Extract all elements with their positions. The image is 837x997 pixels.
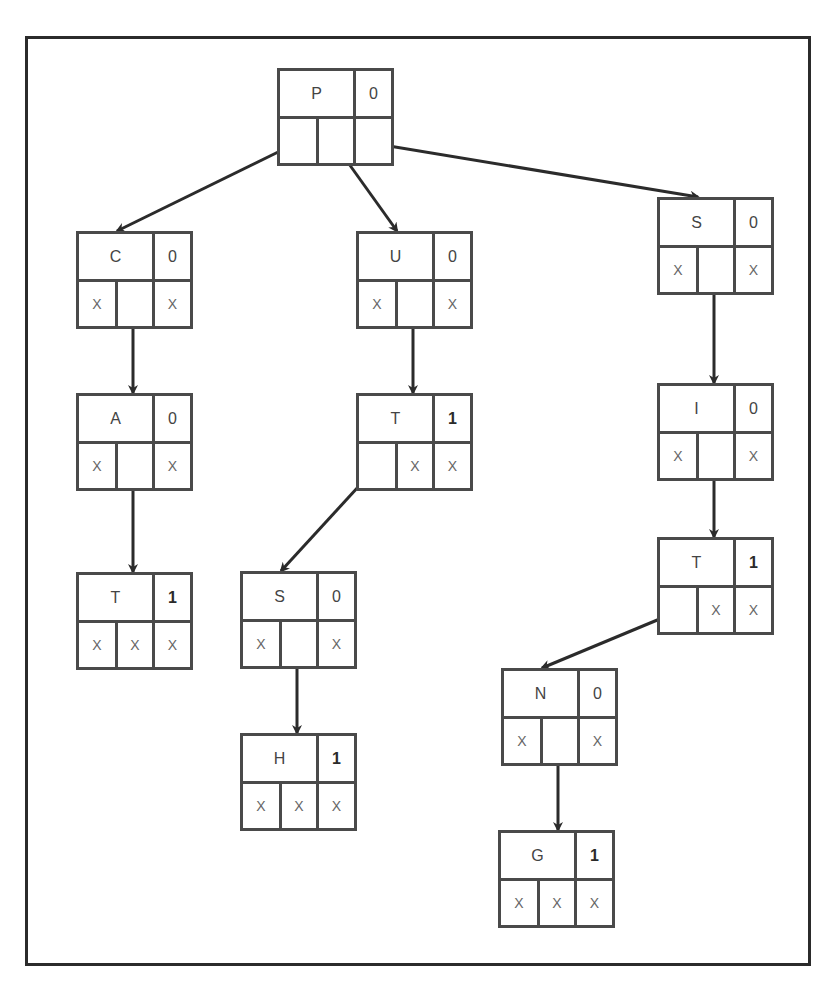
trie-node-G: G1XXX — [498, 830, 615, 928]
node-children: XX — [79, 282, 190, 326]
node-end-flag: 0 — [435, 234, 470, 279]
node-letter: S — [243, 574, 319, 619]
trie-node-U: U0XX — [356, 231, 473, 329]
node-header: A0 — [79, 396, 190, 444]
child-pointer-null: X — [118, 623, 155, 667]
node-letter: A — [79, 396, 155, 441]
child-pointer — [356, 119, 391, 163]
node-children: XX — [504, 719, 615, 763]
child-pointer-null: X — [699, 588, 736, 632]
child-pointer — [699, 434, 736, 478]
trie-node-H: H1XXX — [240, 733, 357, 831]
child-pointer — [660, 588, 699, 632]
node-children: XX — [359, 282, 470, 326]
node-header: S0 — [660, 200, 771, 248]
child-pointer-null: X — [540, 881, 577, 925]
node-header: N0 — [504, 671, 615, 719]
node-letter: T — [79, 575, 155, 620]
trie-diagram: P0 C0XX U0XX S0XX A0XX T1XX I0XX T1XXX S… — [0, 0, 837, 997]
node-end-flag: 0 — [155, 234, 190, 279]
trie-node-A: A0XX — [76, 393, 193, 491]
child-pointer — [280, 119, 319, 163]
node-end-flag: 0 — [736, 200, 771, 245]
trie-node-T2: T1XXX — [76, 572, 193, 670]
child-pointer-null: X — [501, 881, 540, 925]
node-letter: S — [660, 200, 736, 245]
trie-node-S2: S0XX — [240, 571, 357, 669]
child-pointer-null: X — [577, 881, 612, 925]
node-letter: T — [359, 396, 435, 441]
child-pointer — [543, 719, 580, 763]
node-children: XX — [660, 434, 771, 478]
child-pointer — [398, 282, 435, 326]
node-children: XX — [79, 444, 190, 488]
node-header: G1 — [501, 833, 612, 881]
node-letter: U — [359, 234, 435, 279]
trie-node-P: P0 — [277, 68, 394, 166]
node-letter: G — [501, 833, 577, 878]
child-pointer-null: X — [79, 623, 118, 667]
child-pointer-null: X — [736, 588, 771, 632]
node-children — [280, 119, 391, 163]
node-end-flag: 1 — [155, 575, 190, 620]
node-end-flag: 0 — [155, 396, 190, 441]
trie-node-T1: T1XX — [356, 393, 473, 491]
node-children: XXX — [79, 623, 190, 667]
node-header: T1 — [79, 575, 190, 623]
child-pointer-null: X — [243, 784, 282, 828]
node-letter: H — [243, 736, 319, 781]
node-end-flag: 0 — [736, 386, 771, 431]
child-pointer-null: X — [736, 434, 771, 478]
child-pointer — [319, 119, 356, 163]
node-end-flag: 1 — [319, 736, 354, 781]
child-pointer-null: X — [79, 282, 118, 326]
child-pointer — [699, 248, 736, 292]
child-pointer-null: X — [155, 282, 190, 326]
child-pointer-null: X — [319, 784, 354, 828]
child-pointer-null: X — [435, 444, 470, 488]
node-letter: I — [660, 386, 736, 431]
node-end-flag: 1 — [577, 833, 612, 878]
child-pointer-null: X — [359, 282, 398, 326]
trie-node-C: C0XX — [76, 231, 193, 329]
child-pointer-null: X — [155, 444, 190, 488]
node-end-flag: 1 — [736, 540, 771, 585]
node-children: XX — [359, 444, 470, 488]
node-header: I0 — [660, 386, 771, 434]
node-children: XX — [660, 588, 771, 632]
child-pointer — [359, 444, 398, 488]
node-children: XX — [660, 248, 771, 292]
node-letter: C — [79, 234, 155, 279]
child-pointer — [118, 282, 155, 326]
node-letter: T — [660, 540, 736, 585]
child-pointer-null: X — [504, 719, 543, 763]
node-header: T1 — [660, 540, 771, 588]
child-pointer-null: X — [435, 282, 470, 326]
node-children: XX — [243, 622, 354, 666]
node-end-flag: 1 — [435, 396, 470, 441]
child-pointer-null: X — [660, 434, 699, 478]
node-header: T1 — [359, 396, 470, 444]
child-pointer-null: X — [660, 248, 699, 292]
node-end-flag: 0 — [580, 671, 615, 716]
node-letter: N — [504, 671, 580, 716]
node-header: U0 — [359, 234, 470, 282]
node-header: H1 — [243, 736, 354, 784]
node-header: S0 — [243, 574, 354, 622]
node-end-flag: 0 — [319, 574, 354, 619]
child-pointer-null: X — [282, 784, 319, 828]
child-pointer-null: X — [319, 622, 354, 666]
trie-node-S1: S0XX — [657, 197, 774, 295]
node-header: C0 — [79, 234, 190, 282]
node-end-flag: 0 — [356, 71, 391, 116]
node-children: XXX — [501, 881, 612, 925]
child-pointer-null: X — [155, 623, 190, 667]
trie-node-I: I0XX — [657, 383, 774, 481]
node-header: P0 — [280, 71, 391, 119]
trie-node-T3: T1XX — [657, 537, 774, 635]
child-pointer-null: X — [243, 622, 282, 666]
child-pointer-null: X — [580, 719, 615, 763]
child-pointer-null: X — [79, 444, 118, 488]
trie-node-N: N0XX — [501, 668, 618, 766]
node-children: XXX — [243, 784, 354, 828]
